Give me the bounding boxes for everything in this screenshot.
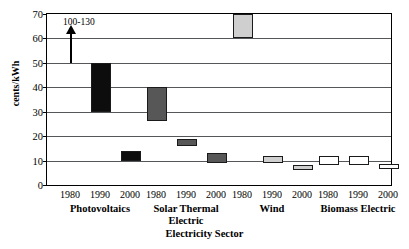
offscale-arrow-shaft — [70, 34, 71, 63]
x-axis-year-label: 2000 — [120, 189, 140, 200]
y-axis-tick-mark — [43, 87, 47, 88]
bar-photovoltaics-2000 — [121, 151, 141, 161]
y-axis-tick-label: 40 — [33, 82, 44, 93]
bar-solar-thermal-electric-1990 — [177, 139, 197, 146]
gridline — [47, 136, 391, 137]
x-axis-group-label: Biomass Electric — [321, 203, 396, 215]
bar-biomass-electric-1980 — [319, 156, 339, 166]
x-axis-year-label: 1980 — [60, 189, 80, 200]
x-axis-year-label: 2000 — [292, 189, 312, 200]
gridline — [47, 112, 391, 113]
x-axis-group-label: Wind — [260, 203, 285, 215]
gridline — [47, 38, 391, 39]
y-axis-tick-mark — [43, 185, 47, 186]
y-axis-tick-mark — [43, 136, 47, 137]
x-axis-year-label: 1990 — [262, 189, 282, 200]
bar-wind-1980 — [233, 14, 253, 38]
y-axis-tick-mark — [43, 14, 47, 15]
y-axis-title: cents/kWh — [10, 39, 21, 129]
y-axis-tick-mark — [43, 161, 47, 162]
chart-figure: cents/kWh 010203040506070100-130 Electri… — [0, 0, 409, 249]
x-axis-year-label: 1980 — [146, 189, 166, 200]
y-axis-tick-mark — [43, 38, 47, 39]
bar-biomass-electric-1990 — [349, 156, 369, 166]
x-axis-group-label-line: Wind — [260, 203, 285, 215]
bar-biomass-electric-2000 — [379, 164, 399, 169]
x-axis-year-label: 1990 — [348, 189, 368, 200]
y-axis-tick-label: 20 — [33, 131, 44, 142]
offscale-value-label: 100-130 — [63, 17, 95, 27]
y-axis-tick-label: 10 — [33, 155, 44, 166]
x-axis-group-label: Photovoltaics — [70, 203, 130, 215]
y-axis-tick-mark — [43, 63, 47, 64]
x-axis-year-label: 1990 — [176, 189, 196, 200]
x-axis-year-label: 1980 — [232, 189, 252, 200]
x-axis-group-label: Solar ThermalElectric — [153, 203, 218, 227]
bar-photovoltaics-1990 — [91, 63, 111, 112]
bar-solar-thermal-electric-2000 — [207, 153, 227, 163]
x-axis-group-label-line: Electric — [153, 215, 218, 227]
x-axis-group-label-line: Photovoltaics — [70, 203, 130, 215]
y-axis-tick-label: 30 — [33, 106, 44, 117]
x-axis-group-label-line: Solar Thermal — [153, 203, 218, 215]
y-axis-tick-label: 60 — [33, 33, 44, 44]
bar-wind-1990 — [263, 156, 283, 163]
x-axis-year-label: 1980 — [318, 189, 338, 200]
y-axis-tick-label: 70 — [33, 9, 44, 20]
plot-inner: 010203040506070100-130 — [47, 14, 391, 185]
bar-wind-2000 — [293, 165, 313, 170]
x-axis-group-label-line: Biomass Electric — [321, 203, 396, 215]
x-axis-year-label: 2000 — [378, 189, 398, 200]
x-axis-year-label: 1990 — [90, 189, 110, 200]
x-axis-title: Electricity Sector — [0, 228, 409, 239]
y-axis-tick-label: 50 — [33, 57, 44, 68]
y-axis-tick-mark — [43, 112, 47, 113]
x-axis-year-label: 2000 — [206, 189, 226, 200]
bar-solar-thermal-electric-1980 — [147, 87, 167, 121]
plot-area: 010203040506070100-130 — [46, 13, 392, 186]
